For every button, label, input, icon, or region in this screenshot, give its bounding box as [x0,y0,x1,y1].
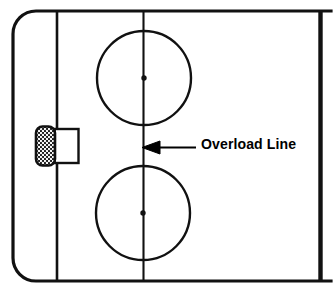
faceoff-dot-bottom [140,210,145,215]
faceoff-dot-top [141,75,146,80]
overload-line-label: Overload Line [201,137,296,152]
hockey-rink-diagram: Overload Line [0,0,335,297]
goal-net [36,127,55,166]
goal-crease [55,129,79,163]
